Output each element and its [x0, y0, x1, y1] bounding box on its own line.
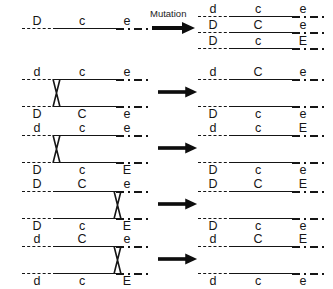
allele-locus-e: E	[294, 122, 312, 135]
crossover-arrow-2	[158, 141, 198, 155]
chromosome-segment-mid	[232, 16, 292, 17]
allele-locus-c: C	[73, 178, 91, 191]
chromosome-segment-mid	[56, 218, 116, 219]
allele-locus-e: e	[294, 19, 312, 32]
allele-locus-d: D	[204, 164, 222, 177]
allele-locus-e: e	[118, 15, 136, 28]
allele-locus-e: E	[294, 178, 312, 191]
allele-locus-c: C	[249, 19, 267, 32]
mutation-label: Mutation	[150, 8, 186, 19]
allele-locus-d: D	[28, 164, 46, 177]
allele-locus-d: d	[204, 3, 222, 16]
allele-locus-e: e	[118, 122, 136, 135]
chromosome-segment-right	[292, 191, 326, 193]
chromosome-segment-right	[292, 16, 326, 18]
chromosome-segment-mid	[232, 48, 292, 49]
chromosome-segment-left	[198, 48, 232, 49]
chromosome-segment-mid	[232, 162, 292, 163]
allele-locus-e: e	[118, 233, 136, 246]
allele-locus-d: D	[28, 15, 46, 28]
allele-locus-d: D	[204, 35, 222, 48]
chromosome-p2-product-2: D c e	[198, 95, 326, 117]
chromosome-p3-parent-1: d c e	[22, 124, 150, 146]
chromosome-segment-mid	[232, 218, 292, 219]
allele-locus-c: c	[73, 275, 91, 288]
chromosome-segment-left	[22, 191, 56, 192]
chromosome-segment-right	[292, 48, 326, 50]
chromosome-p5-product-1: d C E	[198, 235, 326, 257]
chromosome-p5-product-2: d c e	[198, 262, 326, 284]
allele-locus-d: D	[204, 220, 222, 233]
chromosome-segment-right	[292, 246, 326, 248]
chromosome-segment-mid	[56, 191, 116, 192]
chromosome-segment-right	[116, 28, 150, 30]
allele-locus-c: C	[249, 233, 267, 246]
chromosome-p4-product-2: D c e	[198, 207, 326, 229]
chromosome-segment-left	[22, 28, 56, 29]
chromosome-p2-parent-1: d c e	[22, 68, 150, 90]
allele-locus-c: C	[249, 66, 267, 79]
allele-locus-d: D	[204, 108, 222, 121]
chromosome-p5-parent-1: d C e	[22, 235, 150, 257]
allele-locus-e: E	[118, 164, 136, 177]
allele-locus-c: c	[73, 164, 91, 177]
allele-locus-e: E	[294, 35, 312, 48]
chromosome-p1-product-3: D c E	[198, 37, 326, 59]
chromosome-p3-product-2: D c e	[198, 151, 326, 173]
allele-locus-c: C	[73, 233, 91, 246]
allele-locus-c: c	[73, 220, 91, 233]
allele-locus-c: c	[249, 3, 267, 16]
allele-locus-d: D	[28, 108, 46, 121]
allele-locus-e: e	[294, 3, 312, 16]
chromosome-segment-mid	[56, 28, 116, 29]
chromosome-segment-mid	[232, 246, 292, 247]
allele-locus-d: D	[204, 178, 222, 191]
allele-locus-d: d	[204, 66, 222, 79]
chromosome-segment-right	[292, 135, 326, 137]
allele-locus-d: d	[204, 122, 222, 135]
chromosome-segment-right	[292, 32, 326, 34]
allele-locus-c: c	[73, 15, 91, 28]
chromosome-p3-parent-2: D c E	[22, 151, 150, 173]
crossover-x-icon	[51, 135, 62, 163]
chromosome-segment-mid	[56, 162, 116, 163]
chromosome-segment-left	[198, 191, 232, 192]
chromosome-segment-left	[198, 79, 232, 80]
allele-locus-c: c	[73, 122, 91, 135]
allele-locus-d: d	[204, 233, 222, 246]
chromosome-p4-product-1: D C E	[198, 180, 326, 202]
allele-locus-e: e	[118, 66, 136, 79]
allele-locus-d: D	[28, 220, 46, 233]
chromosome-p4-parent-1: D C e	[22, 180, 150, 202]
allele-locus-d: D	[204, 19, 222, 32]
chromosome-p3-product-1: d c E	[198, 124, 326, 146]
chromosome-p1-parent-1: D c e	[22, 17, 150, 39]
chromosome-segment-right	[292, 79, 326, 81]
chromosome-segment-left	[198, 135, 232, 136]
allele-locus-c: c	[249, 108, 267, 121]
chromosome-segment-mid	[56, 246, 116, 247]
allele-locus-d: d	[28, 233, 46, 246]
allele-locus-c: c	[249, 35, 267, 48]
allele-locus-d: d	[204, 275, 222, 288]
allele-locus-d: d	[28, 122, 46, 135]
allele-locus-c: c	[249, 220, 267, 233]
chromosome-segment-mid	[232, 32, 292, 33]
crossover-arrow-3	[158, 197, 198, 211]
allele-locus-c: c	[249, 164, 267, 177]
chromosome-segment-mid	[56, 273, 116, 274]
allele-locus-c: C	[249, 178, 267, 191]
chromosome-p2-parent-2: D C e	[22, 95, 150, 117]
crossover-x-icon	[112, 246, 123, 274]
genetics-diagram: Mutation D c e d c e D C e D	[0, 0, 333, 289]
chromosome-p4-parent-2: D c E	[22, 207, 150, 229]
crossover-arrow-4	[158, 252, 198, 266]
chromosome-segment-mid	[56, 79, 116, 80]
crossover-x-icon	[51, 79, 62, 107]
allele-locus-e: e	[294, 108, 312, 121]
allele-locus-e: E	[294, 233, 312, 246]
chromosome-p5-parent-2: d c E	[22, 262, 150, 284]
crossover-x-icon	[112, 191, 123, 219]
allele-locus-e: E	[118, 220, 136, 233]
allele-locus-e: e	[118, 108, 136, 121]
